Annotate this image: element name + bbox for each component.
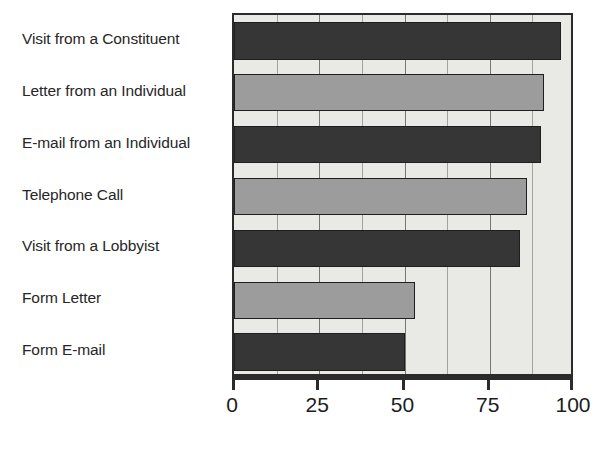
x-tick-label: 50	[391, 394, 414, 415]
category-label: Form Letter	[22, 290, 218, 306]
x-tick-100	[570, 376, 573, 390]
x-tick-25	[316, 376, 319, 390]
bar-chart: Visit from a ConstituentLetter from an I…	[0, 0, 612, 451]
x-tick-label: 0	[226, 394, 238, 415]
x-tick-75	[487, 376, 490, 390]
category-label: Letter from an Individual	[22, 83, 218, 99]
bar	[234, 178, 527, 215]
x-tick-label: 75	[476, 394, 499, 415]
bar	[234, 282, 415, 319]
bar	[234, 230, 520, 267]
gridline-minor-3	[532, 15, 533, 374]
bar	[234, 74, 544, 111]
x-axis-line	[232, 376, 573, 380]
category-label: Telephone Call	[22, 187, 218, 203]
x-tick-0	[232, 376, 235, 390]
bar	[234, 333, 405, 370]
x-tick-label: 100	[555, 394, 590, 415]
x-axis-tick-labels: 0255075100	[232, 394, 573, 424]
category-label: Visit from a Constituent	[22, 31, 218, 47]
bar	[234, 126, 541, 163]
category-label: E-mail from an Individual	[22, 135, 218, 151]
category-axis-labels: Visit from a ConstituentLetter from an I…	[0, 13, 224, 376]
category-label: Form E-mail	[22, 342, 218, 358]
bar	[234, 22, 561, 59]
x-tick-50	[402, 376, 405, 390]
category-label: Visit from a Lobbyist	[22, 239, 218, 255]
plot-area	[232, 13, 573, 376]
x-tick-label: 25	[306, 394, 329, 415]
